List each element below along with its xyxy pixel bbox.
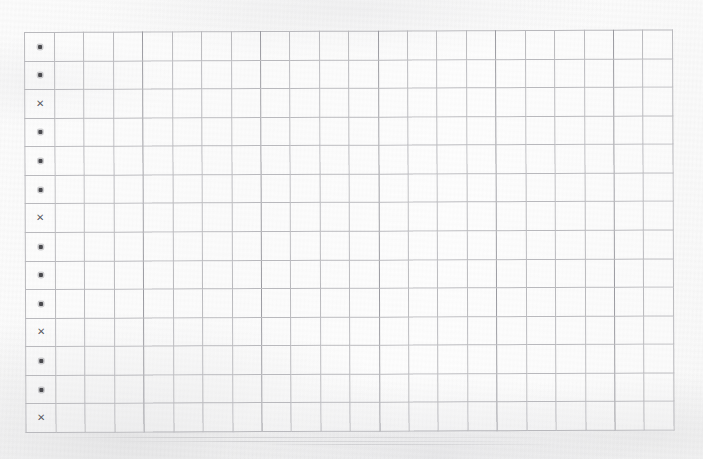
grid-cell	[56, 318, 86, 347]
grid-cell	[467, 116, 497, 145]
grid-cell	[496, 59, 526, 88]
grid-cell	[379, 174, 409, 203]
grid-cell	[262, 403, 292, 432]
grid-cell	[408, 145, 438, 174]
grid-cell	[85, 261, 115, 290]
grid-cell	[144, 260, 174, 289]
grid-cell	[466, 31, 496, 60]
grid-cell-marker	[25, 175, 55, 204]
grid-cell	[467, 145, 497, 174]
grid-cell	[202, 117, 232, 146]
grid-cell	[261, 174, 291, 203]
grid-cell	[114, 146, 144, 175]
grid-cell	[203, 289, 233, 318]
grid-cell	[173, 203, 203, 232]
grid-cell	[437, 116, 467, 145]
grid-cell	[291, 288, 321, 317]
grid-cell	[644, 373, 674, 402]
grid-cell	[496, 173, 526, 202]
grid-cell	[378, 117, 408, 146]
grid-cell	[290, 174, 320, 203]
grid-cell	[231, 89, 261, 118]
grid-cell	[114, 232, 144, 261]
grid-cell	[261, 203, 291, 232]
grid-cell	[231, 117, 261, 146]
grid-cell	[644, 401, 674, 430]
grid-cell	[261, 60, 291, 89]
dot-marker-icon	[39, 359, 43, 363]
grid-cell	[585, 144, 615, 173]
grid-cell	[438, 259, 468, 288]
grid-cell	[468, 316, 498, 345]
grid-cell	[408, 174, 438, 203]
grid-cell	[614, 116, 644, 145]
grid-cell	[585, 316, 615, 345]
grid-cell	[320, 174, 350, 203]
grid-cell	[409, 345, 439, 374]
grid-cell	[408, 31, 438, 60]
table-row	[25, 30, 673, 61]
grid-cell	[585, 344, 615, 373]
grid-cell	[115, 346, 145, 375]
grid-body: ✕✕✕✕	[25, 30, 675, 432]
grid-cell	[320, 203, 350, 232]
grid-cell	[643, 87, 673, 116]
grid-cell	[585, 373, 615, 402]
grid-cell-marker	[26, 375, 56, 404]
grid-cell	[496, 116, 526, 145]
grid-cell	[114, 318, 144, 347]
grid-cell	[85, 289, 115, 318]
grid-cell	[291, 403, 321, 432]
grid-cell	[496, 31, 526, 60]
grid-cell	[526, 116, 556, 145]
grid-cell-marker: ✕	[25, 204, 55, 233]
grid-cell	[555, 87, 585, 116]
grid-cell	[497, 231, 527, 260]
grid-cell	[349, 117, 379, 146]
grid-cell	[290, 88, 320, 117]
table-row: ✕	[25, 201, 673, 232]
grid-cell	[143, 146, 173, 175]
grid-cell	[614, 30, 644, 59]
grid-cell	[378, 88, 408, 117]
grid-cell	[55, 289, 85, 318]
grid-cell	[496, 88, 526, 117]
grid-cell	[55, 261, 85, 290]
grid-cell	[643, 30, 673, 59]
grid-cell	[202, 232, 232, 261]
grid-cell	[232, 403, 262, 432]
grid-cell	[496, 145, 526, 174]
table-row	[25, 116, 673, 147]
grid-cell-marker	[25, 61, 55, 90]
grid-cell	[203, 317, 233, 346]
grid-cell	[497, 288, 527, 317]
grid-cell	[55, 204, 85, 233]
grid-cell	[320, 146, 350, 175]
grid-cell	[84, 32, 114, 61]
grid-cell	[644, 259, 674, 288]
grid-cell	[585, 230, 615, 259]
grid-cell	[232, 374, 262, 403]
grid-cell	[408, 117, 438, 146]
dot-marker-icon	[38, 245, 42, 249]
grid-cell	[320, 317, 350, 346]
grid-cell	[85, 318, 115, 347]
grid-cell	[556, 373, 586, 402]
grid-cell	[85, 346, 115, 375]
grid-cell	[526, 288, 556, 317]
grid-cell	[291, 203, 321, 232]
grid-cell	[614, 59, 644, 88]
grid-cell	[202, 89, 232, 118]
grid-cell	[172, 60, 202, 89]
grid-cell	[84, 89, 114, 118]
grid-cell	[143, 118, 173, 147]
grid-cell	[555, 30, 585, 59]
grid-cell	[643, 59, 673, 88]
grid-cell-marker: ✕	[26, 318, 56, 347]
grid-cell	[173, 232, 203, 261]
grid-cell	[113, 61, 143, 90]
grid-cell	[84, 118, 114, 147]
grid-cell	[291, 346, 321, 375]
grid-cell	[350, 317, 380, 346]
grid-cell	[408, 59, 438, 88]
